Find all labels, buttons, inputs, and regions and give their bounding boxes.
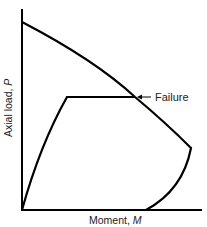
y-axis-symbol: P <box>2 79 14 86</box>
y-axis-label-text: Axial load, <box>2 86 14 137</box>
interaction-envelope-curve <box>22 22 191 210</box>
loading-path-curve <box>22 97 135 210</box>
x-axis-symbol: M <box>133 214 142 226</box>
failure-arrow-icon <box>137 95 151 100</box>
interaction-diagram: Failure Moment, M Axial load, P <box>0 0 207 227</box>
failure-label: Failure <box>155 91 189 103</box>
x-axis-label: Moment, M <box>89 214 142 226</box>
y-axis-label: Axial load, P <box>2 79 14 137</box>
x-axis-label-text: Moment, <box>89 214 133 226</box>
